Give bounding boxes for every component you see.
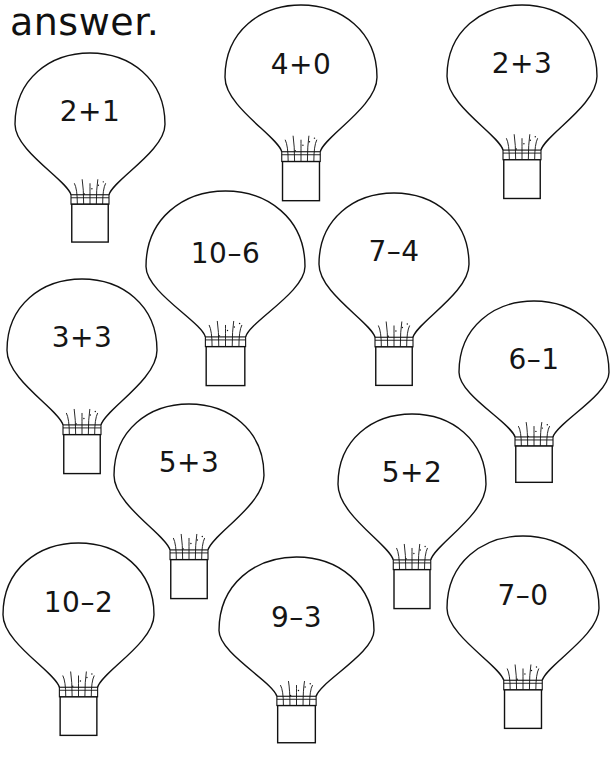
hot-air-balloon: 7–0 <box>446 535 600 730</box>
math-problem: 6–1 <box>458 343 610 376</box>
math-problem: 2+3 <box>446 47 598 80</box>
balloon-outline-icon <box>446 4 598 200</box>
math-problem: 10–2 <box>2 586 155 619</box>
balloon-outline-icon <box>14 52 166 244</box>
balloon-outline-icon <box>218 556 375 745</box>
balloon-outline-icon <box>446 535 600 730</box>
math-problem: 5+3 <box>113 446 265 479</box>
math-problem: 2+1 <box>14 95 166 128</box>
math-problem: 4+0 <box>224 48 378 81</box>
hot-air-balloon: 10–2 <box>2 542 155 737</box>
hot-air-balloon: 7–4 <box>318 192 470 387</box>
balloon-outline-icon <box>2 542 155 737</box>
hot-air-balloon: 2+3 <box>446 4 598 200</box>
math-problem: 9–3 <box>218 601 375 634</box>
math-problem: 10–6 <box>145 237 306 270</box>
balloon-outline-icon <box>224 4 378 203</box>
hot-air-balloon: 10–6 <box>145 190 306 388</box>
balloon-outline-icon <box>145 190 306 388</box>
hot-air-balloon: 9–3 <box>218 556 375 745</box>
hot-air-balloon: 2+1 <box>14 52 166 244</box>
math-problem: 3+3 <box>6 321 158 354</box>
balloon-outline-icon <box>318 192 470 387</box>
math-problem: 7–0 <box>446 579 600 612</box>
math-problem: 5+2 <box>337 456 487 489</box>
math-problem: 7–4 <box>318 235 470 268</box>
hot-air-balloon: 4+0 <box>224 4 378 203</box>
instruction-heading: answer. <box>10 0 159 50</box>
